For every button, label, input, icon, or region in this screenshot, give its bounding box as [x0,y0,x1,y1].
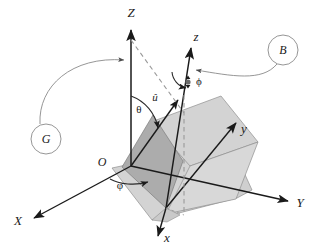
phi-spin-arc [172,72,186,88]
phi-azimuth-angle-label: φ [117,179,123,191]
G-callout-curve [40,60,124,124]
phi-spin-angle-label: ϕ [196,75,202,87]
theta-angle-label: θ [136,103,141,115]
axis-label-X: X [13,213,23,228]
origin-label-O: O [98,155,107,169]
group-marker-B-label: B [279,43,287,57]
figure-root: Z X Y z x y O û θ φ ϕ G B [0,0,317,250]
axis-label-Y: Y [296,195,305,210]
axis-label-y: y [239,121,247,136]
axis-line-X [34,166,131,218]
group-marker-G-label: G [42,132,51,146]
u-hat-label: û [152,91,158,103]
axis-label-x: x [163,230,170,245]
axis-label-Z: Z [127,5,135,20]
euler-angle-diagram: Z X Y z x y O û θ φ ϕ G B [0,0,317,250]
B-callout-curve [196,64,277,76]
axis-label-z: z [192,29,198,44]
